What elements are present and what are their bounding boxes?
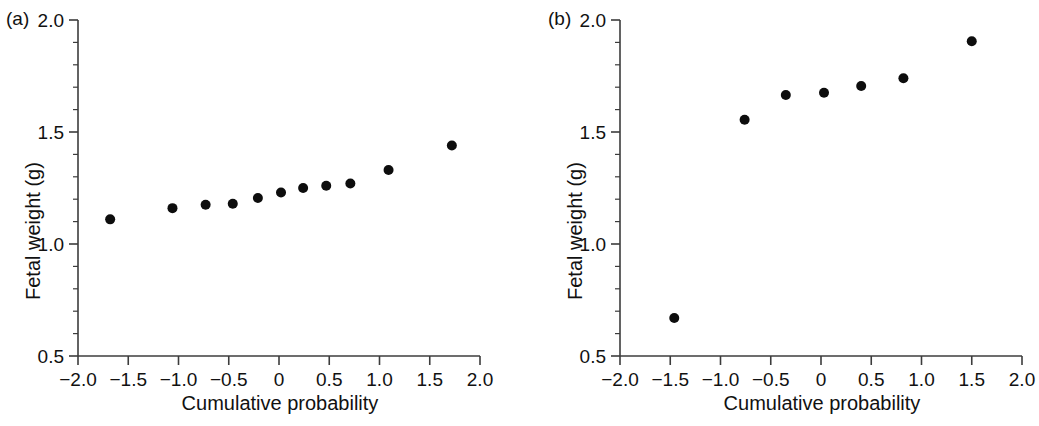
data-point xyxy=(105,214,115,224)
y-tick-label: 1.5 xyxy=(580,122,606,143)
y-tick-label: 1.0 xyxy=(38,234,64,255)
x-tick-label: −0.5 xyxy=(752,369,790,390)
x-tick-label: −2.0 xyxy=(601,369,639,390)
data-point xyxy=(298,183,308,193)
panel-b: (b) Fetal weight (g) Cumulative probabil… xyxy=(520,0,1039,426)
data-point xyxy=(856,81,866,91)
data-point xyxy=(740,115,750,125)
figure-scatter-panels: (a) Fetal weight (g) Cumulative probabil… xyxy=(0,0,1039,426)
data-point xyxy=(669,313,679,323)
data-point xyxy=(967,36,977,46)
x-tick-label: −0.5 xyxy=(210,369,248,390)
x-tick-label: 0.5 xyxy=(316,369,342,390)
x-tick-label: 1.5 xyxy=(417,369,443,390)
data-point xyxy=(384,165,394,175)
data-point xyxy=(167,203,177,213)
x-tick-label: 0.5 xyxy=(858,369,884,390)
y-tick-label: 0.5 xyxy=(580,346,606,367)
panel-a-plot: 0.51.01.52.0−2.0−1.5−1.0−0.500.51.01.52.… xyxy=(0,0,519,426)
data-point xyxy=(345,179,355,189)
x-tick-label: −2.0 xyxy=(59,369,97,390)
data-point xyxy=(819,88,829,98)
data-point xyxy=(276,187,286,197)
data-point xyxy=(321,181,331,191)
x-tick-label: 1.5 xyxy=(959,369,985,390)
y-tick-label: 1.5 xyxy=(38,122,64,143)
y-tick-label: 0.5 xyxy=(38,346,64,367)
data-point xyxy=(447,140,457,150)
x-tick-label: 2.0 xyxy=(467,369,493,390)
x-tick-label: −1.0 xyxy=(160,369,198,390)
y-tick-label: 1.0 xyxy=(580,234,606,255)
data-point xyxy=(781,90,791,100)
x-tick-label: 2.0 xyxy=(1009,369,1035,390)
x-tick-label: −1.5 xyxy=(109,369,147,390)
x-tick-label: 1.0 xyxy=(908,369,934,390)
x-tick-label: 0 xyxy=(274,369,285,390)
data-point xyxy=(201,200,211,210)
x-tick-label: 1.0 xyxy=(366,369,392,390)
x-tick-label: 0 xyxy=(816,369,827,390)
data-point xyxy=(898,73,908,83)
x-tick-label: −1.0 xyxy=(702,369,740,390)
data-point xyxy=(253,193,263,203)
y-tick-label: 2.0 xyxy=(580,10,606,31)
panel-b-plot: 0.51.01.52.0−2.0−1.5−1.0−0.500.51.01.52.… xyxy=(520,0,1039,426)
panel-a: (a) Fetal weight (g) Cumulative probabil… xyxy=(0,0,519,426)
x-tick-label: −1.5 xyxy=(651,369,689,390)
y-tick-label: 2.0 xyxy=(38,10,64,31)
data-point xyxy=(228,199,238,209)
